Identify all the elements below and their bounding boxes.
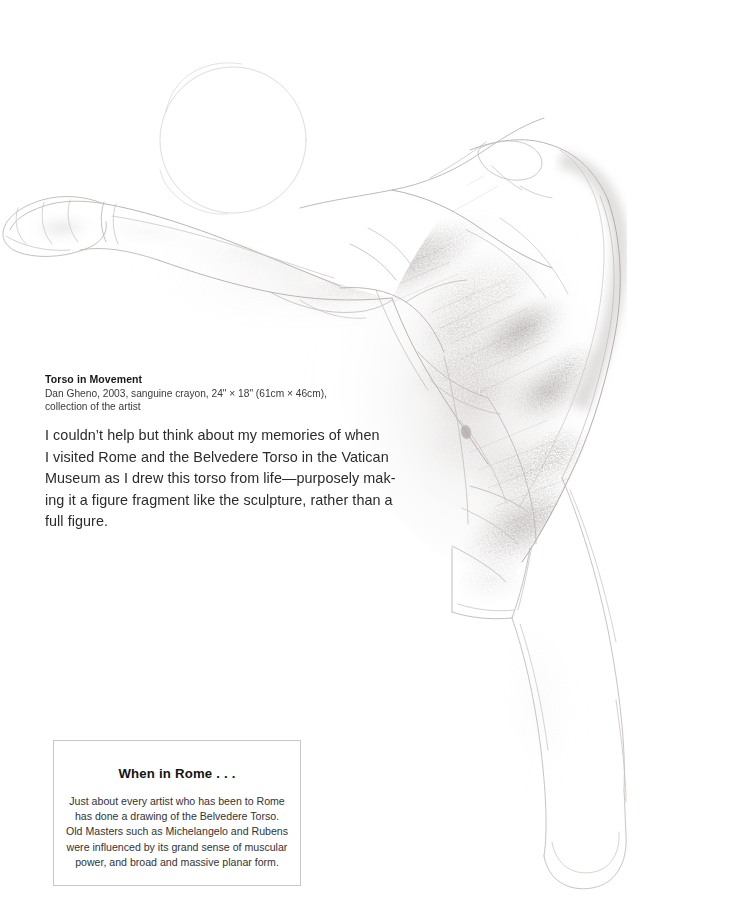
- caption-title: Torso in Movement: [45, 373, 375, 386]
- body-line: full figure.: [45, 511, 367, 533]
- sidebar-body: Just about every artist who has been to …: [54, 781, 300, 870]
- sidebar-line: has done a drawing of the Belvedere Tors…: [64, 809, 290, 824]
- body-line: ing it a figure fragment like the sculpt…: [45, 490, 367, 512]
- when-in-rome-sidebar: When in Rome . . . Just about every arti…: [53, 740, 301, 886]
- sidebar-line: Old Masters such as Michelangelo and Rub…: [64, 824, 290, 839]
- sidebar-line: power, and broad and massive planar form…: [64, 855, 290, 870]
- body-paragraph: I couldn’t help but think about my memor…: [45, 425, 367, 533]
- sidebar-line: Just about every artist who has been to …: [64, 794, 290, 809]
- sidebar-line: were influenced by its grand sense of mu…: [64, 840, 290, 855]
- artwork-caption: Torso in Movement Dan Gheno, 2003, sangu…: [45, 373, 375, 413]
- body-line: I visited Rome and the Belvedere Torso i…: [45, 447, 367, 469]
- sidebar-heading: When in Rome . . .: [54, 741, 300, 781]
- caption-credit-line-1: Dan Gheno, 2003, sanguine crayon, 24" × …: [45, 387, 345, 400]
- caption-credit-line-2: collection of the artist: [45, 400, 345, 413]
- caption-credit: Dan Gheno, 2003, sanguine crayon, 24" × …: [45, 387, 345, 413]
- book-page: Torso in Movement Dan Gheno, 2003, sangu…: [0, 0, 751, 915]
- body-line: I couldn’t help but think about my memor…: [45, 425, 367, 447]
- body-line: Museum as I drew this torso from life—pu…: [45, 468, 367, 490]
